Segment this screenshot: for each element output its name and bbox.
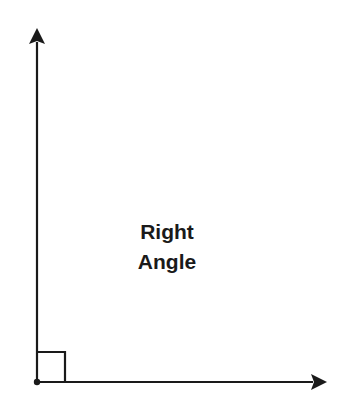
vertex-point — [34, 379, 40, 385]
up-arrowhead-icon — [29, 28, 45, 44]
right-angle-marker — [37, 352, 65, 382]
angle-label-line2: Angle — [112, 247, 222, 277]
angle-label-line1: Right — [112, 217, 222, 247]
right-arrowhead-icon — [311, 374, 327, 390]
right-angle-diagram — [0, 0, 345, 416]
